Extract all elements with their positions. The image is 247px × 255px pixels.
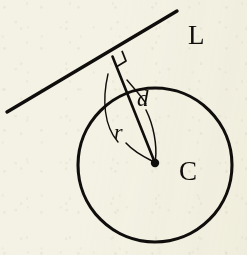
geometry-canvas: L d r C — [0, 0, 247, 255]
label-radius-r: r — [114, 119, 123, 144]
label-line-l: L — [188, 20, 205, 50]
label-distance-d: d — [137, 86, 149, 111]
label-center-c: C — [179, 156, 197, 186]
tangent-line — [7, 11, 177, 112]
center-point-dot — [151, 159, 159, 167]
right-angle-marker — [117, 51, 126, 67]
perpendicular-segment — [113, 57, 156, 164]
geometry-figure: L d r C — [0, 0, 247, 255]
